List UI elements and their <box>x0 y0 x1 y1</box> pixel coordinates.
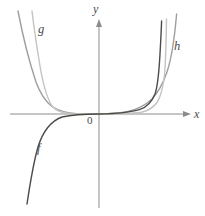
y-axis-arrow-icon <box>96 19 102 27</box>
x-axis-arrow-icon <box>183 111 191 117</box>
curve-f-label: f <box>37 141 42 155</box>
curve-h-label: h <box>174 39 180 53</box>
x-axis-label: x <box>193 107 200 121</box>
graph-canvas: x y 0 f g h <box>0 0 205 216</box>
y-axis-label: y <box>92 2 99 16</box>
curve-g-label: g <box>38 22 44 36</box>
power-functions-figure: x y 0 f g h <box>0 0 205 216</box>
origin-label: 0 <box>87 114 93 126</box>
